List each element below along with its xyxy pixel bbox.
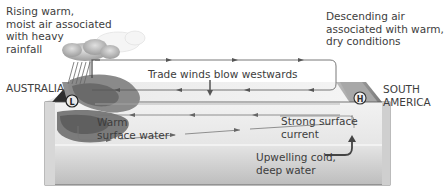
- upwelling-label: Upwelling cold, deep water: [256, 151, 336, 176]
- australia-label: AUSTRALIA: [6, 82, 64, 95]
- svg-text:H: H: [357, 95, 364, 104]
- descending-air-label: Descending air associated with warm, dry…: [326, 10, 444, 48]
- high-pressure-icon: H: [354, 92, 366, 104]
- rising-air-label: Rising warm, moist air associated with h…: [6, 5, 112, 55]
- low-pressure-icon: L: [66, 95, 78, 107]
- south-america-label: SOUTH AMERICA: [383, 83, 431, 108]
- warm-surface-water-label: Warm surface water: [97, 116, 169, 141]
- trade-winds-label: Trade winds blow westwards: [148, 68, 298, 81]
- svg-text:L: L: [69, 98, 74, 107]
- strong-surface-current-label: Strong surface current: [281, 115, 358, 140]
